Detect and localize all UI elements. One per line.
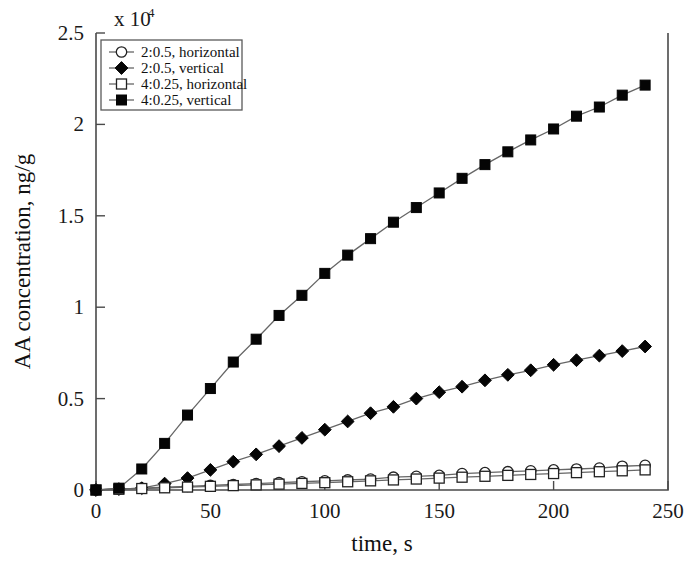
data-point xyxy=(411,474,421,484)
data-point xyxy=(594,467,604,477)
x-axis-title: time, s xyxy=(351,531,412,556)
data-point xyxy=(480,471,490,481)
y-tick-label: 2 xyxy=(74,112,85,136)
y-tick-label: 0.5 xyxy=(58,387,84,411)
data-point xyxy=(594,102,604,112)
legend-label: 4:0.25, horizontal xyxy=(141,76,247,92)
data-point xyxy=(251,334,261,344)
data-point xyxy=(228,357,238,367)
x-tick-label: 100 xyxy=(309,499,341,523)
y-multiplier-label: x 10 xyxy=(114,7,151,31)
data-point xyxy=(205,384,215,394)
data-point xyxy=(503,147,513,157)
data-point xyxy=(137,464,147,474)
data-point xyxy=(434,473,444,483)
data-point xyxy=(434,188,444,198)
data-point xyxy=(205,481,215,491)
data-point xyxy=(320,478,330,488)
data-point xyxy=(388,217,398,227)
data-point xyxy=(388,475,398,485)
y-tick-label: 0 xyxy=(74,478,85,502)
data-point xyxy=(457,173,467,183)
data-point xyxy=(137,484,147,494)
x-tick-label: 0 xyxy=(91,499,102,523)
data-point xyxy=(160,483,170,493)
x-tick-label: 200 xyxy=(538,499,570,523)
data-point xyxy=(183,410,193,420)
data-point xyxy=(526,135,536,145)
data-point xyxy=(160,438,170,448)
legend-layer[interactable]: 2:0.5, horizontal2:0.5, vertical4:0.25, … xyxy=(101,40,247,110)
data-point xyxy=(571,468,581,478)
legend-label: 4:0.25, vertical xyxy=(141,92,231,108)
data-point xyxy=(91,485,101,495)
y-tick-label: 1 xyxy=(74,295,85,319)
legend-marker xyxy=(117,95,127,105)
data-point xyxy=(366,476,376,486)
data-point xyxy=(251,480,261,490)
data-point xyxy=(297,290,307,300)
legend-marker xyxy=(116,47,126,57)
y-axis-title: AA concentration, ng/g xyxy=(10,153,35,369)
line-chart: 05010015020025000.511.522.5 2:0.5, horiz… xyxy=(0,0,698,572)
data-point xyxy=(503,470,513,480)
x-tick-label: 250 xyxy=(652,499,684,523)
data-point xyxy=(274,479,284,489)
y-multiplier-exponent: 4 xyxy=(148,5,155,20)
data-point xyxy=(114,483,124,493)
data-point xyxy=(343,250,353,260)
legend-label: 2:0.5, vertical xyxy=(141,60,224,76)
data-point xyxy=(183,482,193,492)
data-point xyxy=(411,203,421,213)
y-tick-label: 1.5 xyxy=(58,204,84,228)
legend-marker xyxy=(117,79,127,89)
data-point xyxy=(480,160,490,170)
legend-label: 2:0.5, horizontal xyxy=(141,44,240,60)
data-point xyxy=(457,472,467,482)
data-point xyxy=(297,478,307,488)
x-tick-label: 50 xyxy=(200,499,221,523)
data-point xyxy=(526,469,536,479)
data-point xyxy=(274,310,284,320)
data-point xyxy=(640,465,650,475)
data-point xyxy=(228,481,238,491)
data-point xyxy=(343,477,353,487)
data-point xyxy=(366,234,376,244)
data-point xyxy=(549,124,559,134)
y-tick-label: 2.5 xyxy=(58,21,84,45)
x-tick-label: 150 xyxy=(423,499,455,523)
data-point xyxy=(617,90,627,100)
data-point xyxy=(571,111,581,121)
data-point xyxy=(549,469,559,479)
chart-figure: 05010015020025000.511.522.5 2:0.5, horiz… xyxy=(0,0,698,572)
data-point xyxy=(640,80,650,90)
data-point xyxy=(617,466,627,476)
data-point xyxy=(320,268,330,278)
